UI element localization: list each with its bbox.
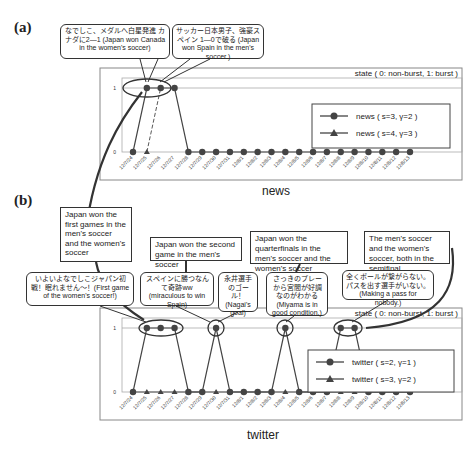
- data-point: [171, 85, 177, 91]
- data-point: [282, 149, 288, 155]
- svg-text:twitter ( s=2, γ=1 ): twitter ( s=2, γ=1 ): [352, 358, 416, 367]
- data-point: [130, 149, 136, 155]
- note-first-games: Japan won the first games in the men's s…: [60, 207, 132, 262]
- data-point: [254, 149, 260, 155]
- note-quarterfinals: Japan won the quarterfinals in the men's…: [250, 231, 348, 264]
- callout-b-spain: スペインに勝つなんて奇跡ww (miraculous to win Spain): [140, 272, 214, 306]
- data-point: [310, 149, 316, 155]
- data-point: [324, 149, 330, 155]
- chart-b-title: twitter: [247, 428, 279, 442]
- data-point: [351, 325, 357, 331]
- data-point: [407, 149, 413, 155]
- legend: [308, 350, 454, 392]
- svg-text:news ( s=3, γ=2 ): news ( s=3, γ=2 ): [356, 112, 418, 121]
- callout-b-first-game: いよいよなでしこジャパン初戦！眠れません〜！(First game of the…: [26, 272, 134, 306]
- chart-a-title: news: [262, 184, 290, 198]
- data-point: [393, 149, 399, 155]
- chart-twitter: 10state ( 0: non-burst, 1: burst )12/7/2…: [100, 308, 462, 420]
- svg-text:0: 0: [113, 149, 116, 155]
- chart-news: 10state ( 0: non-burst, 1: burst )12/7/2…: [100, 68, 462, 180]
- svg-text:news ( s=4, γ=3 ): news ( s=4, γ=3 ): [356, 129, 418, 138]
- data-point: [171, 325, 177, 331]
- data-point: [227, 149, 233, 155]
- callout-a-spain: サッカー日本男子、強豪スペイン 1—0で破る (Japan won Spain …: [172, 24, 264, 59]
- note-semifinal: The men's soccer and the women's soccer,…: [364, 231, 450, 264]
- data-point: [213, 325, 219, 331]
- data-point: [338, 325, 344, 331]
- callout-a-canada: なでしこ、メダルへ白星発進 カナダに2—1 (Japan won Canada …: [60, 24, 170, 59]
- svg-text:state ( 0: non-burst, 1: burst: state ( 0: non-burst, 1: burst ): [355, 69, 458, 78]
- legend: [312, 104, 450, 148]
- data-point: [351, 149, 357, 155]
- data-point: [185, 149, 191, 155]
- svg-text:0: 0: [113, 389, 116, 395]
- data-point: [268, 149, 274, 155]
- svg-text:1: 1: [113, 85, 116, 91]
- data-point: [144, 85, 150, 91]
- data-point: [296, 149, 302, 155]
- data-point: [338, 149, 344, 155]
- data-point: [144, 325, 150, 331]
- data-point: [199, 149, 205, 155]
- data-point: [158, 325, 164, 331]
- data-point: [365, 149, 371, 155]
- note-second-game: Japan won the second game in the men's s…: [150, 237, 242, 261]
- callout-b-miyama: さっきのプレーから宮間が好調なのがわかる (Miyama is in good …: [266, 272, 328, 316]
- callout-b-nagai: 永井選手のゴール！(Nagai's goal): [218, 272, 258, 312]
- svg-text:twitter ( s=3, γ=2 ): twitter ( s=3, γ=2 ): [352, 375, 416, 384]
- data-point: [379, 149, 385, 155]
- svg-text:1: 1: [113, 325, 116, 331]
- data-point: [213, 149, 219, 155]
- callout-b-pass: 全くボールが繋がらない。パスを出す選手がいない。(Making a pass f…: [342, 270, 434, 300]
- data-point: [282, 325, 288, 331]
- data-point: [241, 149, 247, 155]
